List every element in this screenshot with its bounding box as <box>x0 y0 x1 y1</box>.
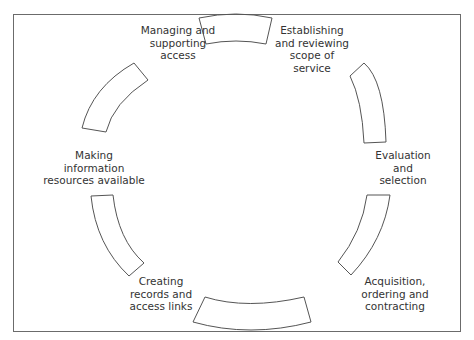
label-line: and reviewing <box>275 37 349 50</box>
arc-segment-upper-left <box>82 63 148 132</box>
label-line: Managing and <box>141 24 216 37</box>
label-line: supporting <box>141 37 216 50</box>
label-line: access <box>141 49 216 62</box>
label-line: Making <box>43 149 145 162</box>
label-line: service <box>275 62 349 75</box>
label-line: Establishing <box>275 24 349 37</box>
label-line: Acquisition, <box>361 275 428 288</box>
arc-segment-lower-right <box>338 195 390 275</box>
stage-label-scope: Establishing and reviewing scope of serv… <box>275 24 349 74</box>
stage-label-records: Creating records and access links <box>130 275 193 313</box>
label-line: access links <box>130 300 193 313</box>
label-line: selection <box>375 174 430 187</box>
label-line: resources available <box>43 174 145 187</box>
stage-label-acquisition: Acquisition, ordering and contracting <box>361 275 428 313</box>
stage-label-evaluation: Evaluation and selection <box>375 149 430 187</box>
stage-label-making-available: Making information resources available <box>43 149 145 187</box>
label-line: contracting <box>361 300 428 313</box>
stage-label-access: Managing and supporting access <box>141 24 216 62</box>
arc-segment-upper-right <box>350 63 386 143</box>
label-line: records and <box>130 288 193 301</box>
arc-segment-lower-left <box>91 195 144 276</box>
arc-segment-bottom <box>193 297 311 330</box>
label-line: and <box>375 162 430 175</box>
label-line: ordering and <box>361 288 428 301</box>
label-line: scope of <box>275 49 349 62</box>
label-line: Evaluation <box>375 149 430 162</box>
label-line: Creating <box>130 275 193 288</box>
label-line: information <box>43 162 145 175</box>
